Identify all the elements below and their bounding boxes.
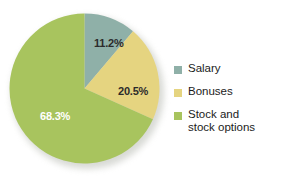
pie-graphic: 11.2% 20.5% 68.3% bbox=[8, 12, 161, 165]
legend-swatch-salary bbox=[174, 66, 182, 74]
legend-label-bonuses: Bonuses bbox=[188, 85, 233, 98]
legend-label-salary: Salary bbox=[188, 62, 221, 75]
legend-item-salary[interactable]: Salary bbox=[174, 62, 278, 75]
legend-swatch-stock bbox=[174, 112, 182, 120]
pie-slices bbox=[8, 12, 161, 165]
legend-item-stock[interactable]: Stock and stock options bbox=[174, 108, 278, 134]
legend-label-stock: Stock and stock options bbox=[188, 108, 255, 134]
chart-legend: Salary Bonuses Stock and stock options bbox=[174, 62, 278, 134]
legend-swatch-bonuses bbox=[174, 89, 182, 97]
pie-chart-figure: 11.2% 20.5% 68.3% Salary Bonuses Stock a… bbox=[0, 0, 282, 178]
legend-item-bonuses[interactable]: Bonuses bbox=[174, 85, 278, 98]
